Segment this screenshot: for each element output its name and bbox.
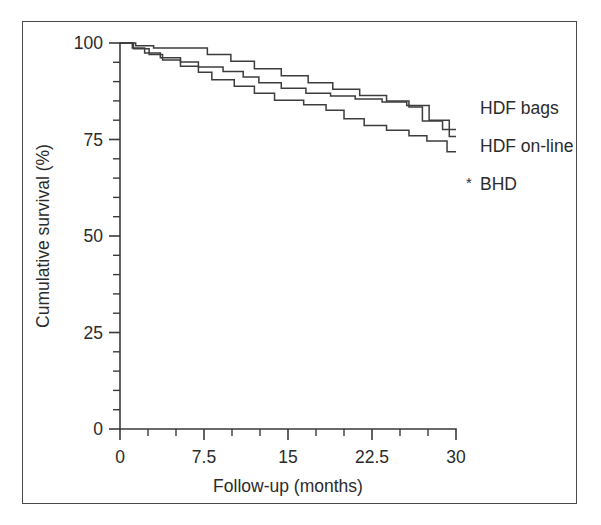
x-tick-label: 7.5 xyxy=(192,447,216,467)
y-tick-label: 75 xyxy=(84,130,103,150)
y-axis-ticks xyxy=(109,43,120,429)
legend-marker-bhd: * xyxy=(466,174,472,191)
y-tick-label: 50 xyxy=(84,226,104,246)
x-axis-ticks xyxy=(120,429,456,440)
y-tick-label: 25 xyxy=(84,323,103,343)
legend: HDF bagsHDF on-line*BHD xyxy=(466,98,573,194)
x-tick-label: 22.5 xyxy=(355,447,389,467)
legend-label-hdf-bags: HDF bags xyxy=(480,98,559,118)
x-tick-label: 0 xyxy=(115,447,125,467)
x-tick-label: 30 xyxy=(446,447,466,467)
y-tick-label: 100 xyxy=(74,33,103,53)
legend-label-bhd: BHD xyxy=(480,174,517,194)
survival-chart: 0255075100 07.51522.530 Follow-up (month… xyxy=(23,22,575,502)
survival-curve-hdf-on-line xyxy=(120,43,456,136)
survival-curve-hdf-bags xyxy=(120,43,456,129)
y-axis-tick-labels: 0255075100 xyxy=(74,33,103,439)
survival-curves xyxy=(120,43,456,152)
y-tick-label: 0 xyxy=(93,419,103,439)
x-tick-label: 15 xyxy=(278,447,297,467)
legend-label-hdf-on-line: HDF on-line xyxy=(480,136,573,156)
figure-frame: 0255075100 07.51522.530 Follow-up (month… xyxy=(22,21,577,504)
survival-curve-bhd xyxy=(120,43,456,152)
x-axis-tick-labels: 07.51522.530 xyxy=(115,447,466,467)
y-axis-title: Cumulative survival (%) xyxy=(33,144,53,328)
x-axis-title: Follow-up (months) xyxy=(213,476,363,496)
figure-root: 0255075100 07.51522.530 Follow-up (month… xyxy=(0,0,601,525)
